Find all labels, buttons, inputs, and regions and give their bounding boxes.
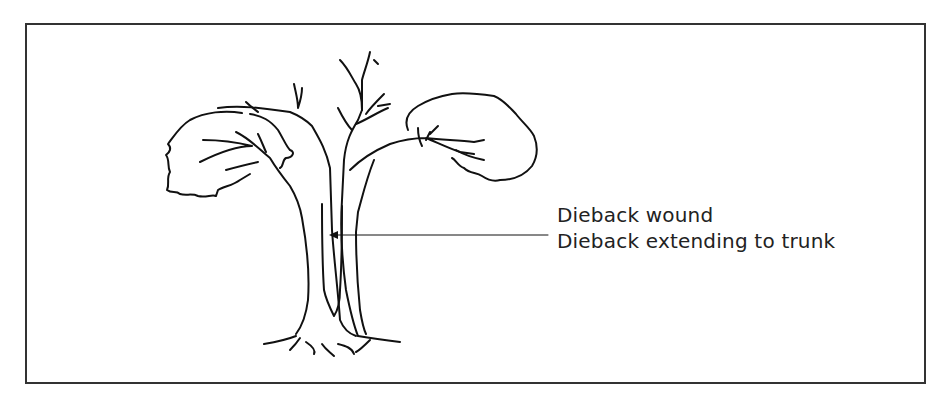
right-canopy-outline xyxy=(406,93,536,181)
label-dieback-wound: Dieback wound xyxy=(557,202,713,228)
right-main-branch xyxy=(350,108,484,170)
central-leader-twigs xyxy=(338,52,390,130)
left-branch-lower xyxy=(236,132,309,334)
tree-illustration xyxy=(0,0,944,402)
left-canopy-outline xyxy=(166,112,250,197)
left-main-branch xyxy=(218,107,356,336)
label-dieback-extending-to-trunk: Dieback extending to trunk xyxy=(557,228,835,254)
trunk-right-edge xyxy=(356,160,374,334)
root-flare xyxy=(264,336,400,356)
